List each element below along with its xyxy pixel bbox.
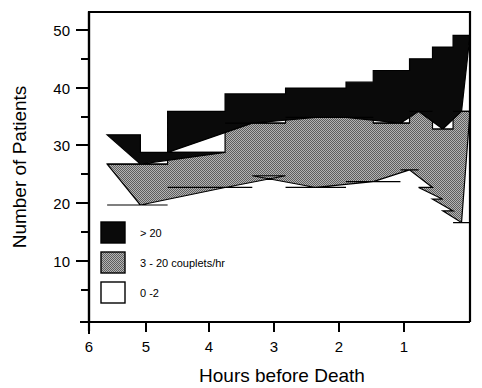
legend-swatch-0to2 — [101, 282, 125, 303]
y-axis-major-ticks — [76, 30, 89, 261]
x-tick-label-3: 3 — [270, 338, 278, 355]
legend-label-3to20: 3 - 20 couplets/hr — [140, 257, 225, 269]
x-axis-title: Hours before Death — [199, 365, 365, 386]
y-tick-label-30: 30 — [53, 137, 70, 154]
x-tick-label-2: 2 — [335, 338, 343, 355]
x-tick-label-5: 5 — [142, 338, 150, 355]
legend-label-0to2: 0 -2 — [140, 287, 159, 299]
chart-figure: 50 40 30 20 10 6 5 4 3 2 1 Number of Pat… — [0, 0, 482, 388]
legend-swatch-3to20 — [101, 252, 125, 273]
y-axis-tick-labels: 50 40 30 20 10 — [53, 22, 70, 270]
x-tick-label-6: 6 — [85, 338, 93, 355]
y-tick-label-20: 20 — [53, 195, 70, 212]
y-axis-minor-ticks — [81, 59, 89, 290]
y-tick-label-50: 50 — [53, 22, 70, 39]
x-axis-major-ticks — [89, 322, 404, 334]
x-tick-label-1: 1 — [400, 338, 408, 355]
legend-label-gt20: > 20 — [140, 227, 162, 239]
y-tick-label-10: 10 — [53, 253, 70, 270]
x-axis-tick-labels: 6 5 4 3 2 1 — [85, 338, 408, 355]
x-tick-label-4: 4 — [205, 338, 213, 355]
y-axis-title: Number of Patients — [9, 86, 30, 249]
legend-swatch-gt20 — [101, 222, 125, 243]
y-tick-label-40: 40 — [53, 80, 70, 97]
